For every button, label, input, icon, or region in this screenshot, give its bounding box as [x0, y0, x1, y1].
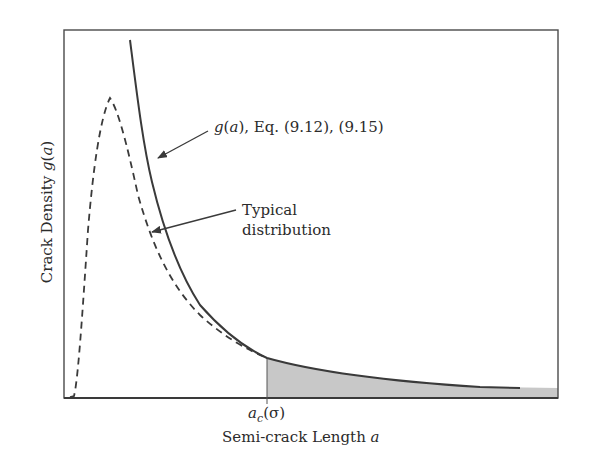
y-axis-label-paren-close: )	[38, 141, 56, 147]
y-axis-label-a: a	[38, 147, 56, 156]
annotation-arrow-typical	[152, 210, 236, 232]
y-axis-label: Crack Density g(a)	[38, 141, 56, 283]
annotation-typical-line1: Typical	[242, 200, 331, 220]
annotation-typical-distribution: Typical distribution	[242, 200, 331, 240]
y-axis-label-text: Crack Density	[38, 171, 56, 283]
x-axis-label-a: a	[371, 428, 380, 446]
x-tick-critical-length: ac(σ)	[248, 404, 285, 425]
y-axis-label-g: g	[38, 161, 56, 171]
x-tick-sigma: (σ)	[263, 404, 285, 422]
x-tick-a: a	[248, 404, 257, 422]
shaded-tail-region	[267, 358, 558, 398]
series-typical-distribution-curve	[70, 98, 267, 397]
x-axis-label: Semi-crack Length a	[222, 428, 380, 446]
x-axis-label-text: Semi-crack Length	[222, 428, 371, 446]
annotation-g-of-a: g(a), Eq. (9.12), (9.15)	[214, 118, 384, 136]
annotation-equation-refs: ), Eq. (9.12), (9.15)	[238, 118, 383, 136]
y-axis-label-paren: (	[38, 156, 56, 162]
annotation-g: g	[214, 118, 224, 136]
annotation-typical-line2: distribution	[242, 220, 331, 240]
annotation-arrow-g-of-a	[158, 131, 208, 158]
